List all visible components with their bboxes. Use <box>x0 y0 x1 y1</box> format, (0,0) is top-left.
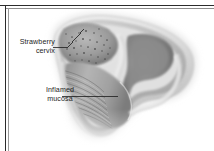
label-strawberry-cervix: Strawberry cervix <box>11 38 55 55</box>
illustration-artboard: Strawberry cervix Inflamed mucosa <box>0 0 214 151</box>
figure-container: Strawberry cervix Inflamed mucosa <box>0 0 214 151</box>
frame-top-hairline <box>6 8 214 9</box>
frame-left-hairline <box>8 8 9 151</box>
label-strawberry-cervix-line2: cervix <box>11 47 55 56</box>
frame-top-rule <box>0 5 214 6</box>
anatomical-illustration <box>0 0 214 151</box>
label-inflamed-mucosa-line2: mucosa <box>34 95 86 104</box>
label-inflamed-mucosa: Inflamed mucosa <box>34 86 86 103</box>
frame-left-rule <box>5 5 6 151</box>
cervix-body <box>59 24 118 66</box>
label-inflamed-mucosa-line1: Inflamed <box>34 86 86 95</box>
label-strawberry-cervix-line1: Strawberry <box>11 38 55 47</box>
